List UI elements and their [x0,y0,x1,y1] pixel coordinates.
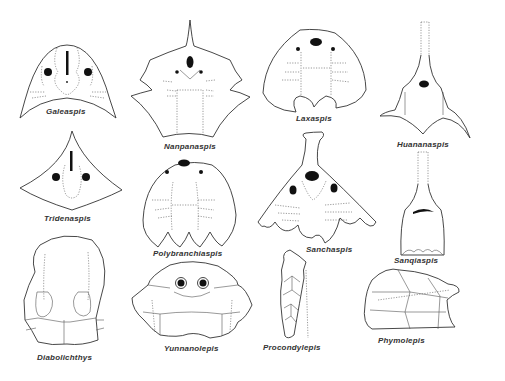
label-yunnanolepis: Yunnanolepis [164,344,219,353]
yunnanolepis-drawing [132,262,252,338]
label-sanchaspis: Sanchaspis [306,245,352,254]
sanchaspis-drawing [258,132,376,243]
laxaspis-drawing [263,29,366,112]
label-procondylepis: Procondylepis [263,343,321,352]
nanpanaspis-drawing [131,20,250,137]
label-sanqiaspis: Sanqiaspis [394,256,438,265]
sanqiaspis-drawing [401,152,444,255]
label-galeaspis: Galeaspis [46,107,86,116]
huananaspis-drawing [380,22,470,138]
label-polybranchiaspis: Polybranchiaspis [153,249,222,258]
phymolepis-drawing [364,269,459,329]
label-laxaspis: Laxaspis [296,114,332,123]
label-huananaspis: Huananaspis [397,140,449,149]
label-phymolepis: Phymolepis [378,336,425,345]
tridenaspis-drawing [20,131,122,210]
label-diabolichthys: Diabolichthys [37,353,92,362]
procondylepis-drawing [281,250,308,338]
diabolichthys-drawing [24,236,105,345]
label-nanpanaspis: Nanpanaspis [164,142,216,151]
figure-drawings [0,0,505,381]
polybranchiaspis-drawing [143,160,236,248]
label-tridenaspis: Tridenaspis [44,214,91,223]
